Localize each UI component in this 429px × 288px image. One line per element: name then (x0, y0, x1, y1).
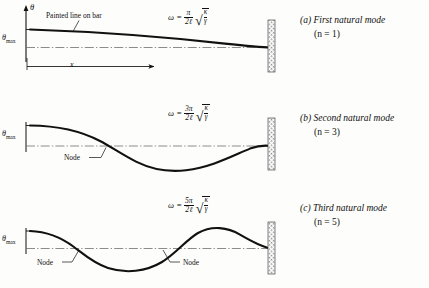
equals-c: = (176, 200, 182, 210)
caption-tag-c: (c) (300, 203, 311, 213)
theta-max-label-a: θmax (2, 33, 16, 44)
caption-tag-a: (a) (300, 15, 311, 25)
caption-mode-number-b: (n = 3) (300, 126, 394, 140)
omega-symbol-b: ω (168, 108, 174, 118)
theta-max-subscript-b: max (6, 134, 16, 140)
radical-numerator-c: κ (204, 197, 207, 205)
radical-numerator-a: κ (204, 9, 207, 17)
caption-tag-b: (b) (300, 113, 311, 123)
radical-content-c: κγ (202, 196, 209, 213)
node-leader-c1-diagonal (72, 250, 79, 262)
caption-mode-number-a: (n = 1) (300, 28, 385, 42)
frequency-fraction-a: π 2ℓ (184, 9, 193, 26)
theta-axis-arrowhead-a (24, 5, 29, 11)
equals-a: = (176, 12, 182, 22)
fixed-wall-c (268, 222, 275, 274)
caption-b: (b) Second natural mode (n = 3) (300, 112, 394, 140)
radical-denominator-a: γ (204, 17, 207, 26)
equals-b: = (176, 108, 182, 118)
fraction-denominator-c: 2ℓ (184, 205, 194, 214)
caption-mode-number-c: (n = 5) (300, 216, 387, 230)
omega-symbol-c: ω (168, 200, 174, 210)
mode-shape-curve-a (30, 30, 271, 48)
node-label-c-right: Node (183, 258, 199, 267)
fraction-numerator-a: π (184, 9, 193, 17)
theta-max-subscript-c: max (6, 239, 16, 245)
mode-shape-curve-c (30, 228, 271, 271)
frequency-fraction-b: 3π 2ℓ (184, 105, 194, 122)
fraction-denominator-b: 2ℓ (184, 113, 194, 122)
formula-a: ω = π 2ℓ √κγ (168, 9, 209, 28)
radical-content-a: κγ (202, 8, 209, 25)
formula-b: ω = 3π 2ℓ √κγ (168, 105, 210, 124)
panel-b-graphics (26, 118, 275, 171)
painted-line-leader-a (73, 21, 79, 32)
node-label-c-left: Node (37, 258, 53, 267)
mode-shape-curve-b (30, 126, 271, 171)
radical-b: √κγ (196, 105, 210, 124)
formula-c: ω = 5π 2ℓ √κγ (168, 197, 210, 216)
omega-symbol-a: ω (168, 12, 174, 22)
torsional-mode-figure: θ θmax Painted line on bar x ω = π 2ℓ √κ… (0, 0, 429, 288)
caption-text-a: First natural mode (313, 15, 385, 25)
theta-max-subscript-a: max (6, 38, 16, 44)
fixed-wall-a (268, 20, 275, 72)
radical-c: √κγ (196, 197, 210, 216)
figure-canvas (0, 0, 429, 288)
fixed-wall-b (268, 118, 275, 170)
fraction-denominator-a: 2ℓ (184, 17, 193, 26)
painted-line-label: Painted line on bar (46, 11, 102, 20)
node-label-b: Node (64, 153, 80, 162)
theta-max-label-b: θmax (2, 129, 16, 140)
radical-a: √κγ (195, 9, 209, 28)
fraction-numerator-c: 5π (184, 197, 194, 205)
fraction-numerator-b: 3π (184, 105, 194, 113)
theta-axis-label-a: θ (30, 2, 34, 12)
caption-text-c: Third natural mode (313, 203, 387, 213)
radical-denominator-b: γ (204, 113, 207, 122)
radical-content-b: κγ (202, 104, 209, 121)
panel-c-graphics (26, 222, 275, 274)
node-leader-b-diagonal (101, 148, 106, 158)
frequency-fraction-c: 5π 2ℓ (184, 197, 194, 214)
caption-c: (c) Third natural mode (n = 5) (300, 202, 387, 230)
caption-text-b: Second natural mode (313, 113, 394, 123)
x-distance-label: x (70, 60, 74, 69)
theta-max-label-c: θmax (2, 234, 16, 245)
radical-numerator-b: κ (204, 105, 207, 113)
caption-a: (a) First natural mode (n = 1) (300, 14, 385, 42)
radical-denominator-c: γ (204, 205, 207, 214)
